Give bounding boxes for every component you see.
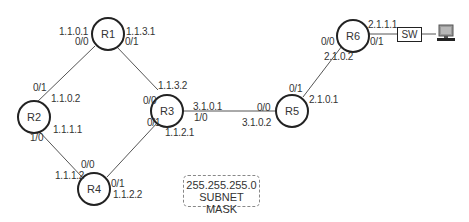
- link-r4-r3: [107, 122, 158, 177]
- r3-right-ip: 3.1.0.1: [193, 102, 222, 112]
- r6-left-port: 0/0: [321, 37, 334, 47]
- subnet-mask-value: 255.255.255.0: [184, 179, 259, 191]
- router-r5-label: R5: [285, 105, 299, 117]
- subnet-mask-label: SUBNET MASK: [184, 191, 259, 215]
- r4-top-port: 0/0: [81, 160, 94, 170]
- r1-left-port: 0/0: [75, 37, 88, 47]
- router-r2-label: R2: [27, 111, 41, 123]
- subnet-mask-box: 255.255.255.0 SUBNET MASK: [183, 175, 260, 207]
- router-r6-label: R6: [346, 30, 360, 42]
- r3-bottom-ip: 1.1.2.1: [165, 128, 194, 138]
- router-r2[interactable]: R2: [17, 100, 51, 134]
- switch-label: SW: [401, 29, 417, 40]
- r5-left-port: 0/0: [257, 103, 270, 113]
- r3-right-port: 1/0: [194, 113, 207, 123]
- router-r6[interactable]: R6: [336, 19, 370, 53]
- r3-top-port: 0/0: [143, 96, 156, 106]
- router-r5[interactable]: R5: [275, 94, 309, 128]
- r2-bottom-port: 1/0: [30, 133, 43, 143]
- r2-top-ip: 1.1.0.2: [51, 94, 80, 104]
- router-r1-label: R1: [101, 28, 115, 40]
- r6-right-port: 0/1: [370, 37, 383, 47]
- r4-top-ip: 1.1.1.2: [55, 171, 84, 181]
- r5-top-ip: 2.1.0.1: [309, 95, 338, 105]
- r5-top-port: 0/1: [289, 84, 302, 94]
- r4-right-port: 0/1: [111, 179, 124, 189]
- r4-right-ip: 1.1.2.2: [113, 190, 142, 200]
- r3-top-ip: 1.1.3.2: [158, 81, 187, 91]
- r5-left-ip: 3.1.0.2: [242, 118, 271, 128]
- router-r4-label: R4: [87, 183, 101, 195]
- link-r1-r3: [116, 46, 158, 90]
- computer-icon[interactable]: [436, 24, 456, 44]
- r1-right-port: 0/1: [125, 37, 138, 47]
- r6-right-ip: 2.1.1.1: [368, 20, 397, 30]
- r2-bottom-ip: 1.1.1.1: [53, 125, 82, 135]
- r2-top-port: 0/1: [33, 83, 46, 93]
- switch-sw[interactable]: SW: [397, 27, 422, 42]
- router-r3-label: R3: [160, 105, 174, 117]
- r6-left-ip: 2.1.0.2: [324, 52, 353, 62]
- r3-bottom-port: 0/1: [147, 118, 160, 128]
- router-r1[interactable]: R1: [91, 17, 125, 51]
